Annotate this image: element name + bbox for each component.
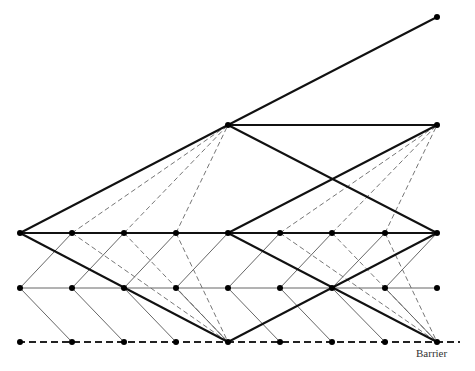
lattice-node	[225, 285, 231, 291]
thin-edge	[332, 288, 385, 342]
lattice-node	[382, 285, 388, 291]
lattice-node	[329, 230, 335, 236]
dashed-edge	[385, 233, 437, 342]
thin-edge	[176, 233, 228, 288]
lattice-node	[277, 230, 283, 236]
thin-edge	[124, 288, 176, 342]
lattice-node	[173, 339, 179, 345]
lattice-node	[17, 230, 23, 236]
thin-edge	[228, 233, 280, 288]
thin-edge	[72, 233, 124, 288]
lattice-node	[121, 230, 127, 236]
lattice-node	[69, 285, 75, 291]
lattice-node	[17, 339, 23, 345]
lattice-node	[69, 230, 75, 236]
thick-edges	[20, 17, 437, 342]
thin-edge	[228, 288, 280, 342]
lattice-node	[434, 122, 440, 128]
lattice-node	[434, 285, 440, 291]
thick-edge	[228, 17, 437, 125]
thin-edge	[385, 233, 437, 288]
nodes	[17, 14, 440, 345]
lattice-node	[69, 339, 75, 345]
lattice-node	[329, 339, 335, 345]
dashed-edge	[385, 125, 437, 233]
lattice-node	[173, 285, 179, 291]
lattice-node	[382, 230, 388, 236]
dashed-edge	[332, 125, 437, 233]
lattice-node	[382, 339, 388, 345]
lattice-node	[225, 339, 231, 345]
lattice-node	[121, 285, 127, 291]
thin-edge	[72, 288, 124, 342]
lattice-node	[277, 339, 283, 345]
lattice-node	[434, 14, 440, 20]
dashed-edge	[72, 233, 228, 342]
lattice-node	[225, 122, 231, 128]
lattice-node	[329, 285, 335, 291]
dashed-edge	[124, 125, 228, 233]
lattice-node	[121, 339, 127, 345]
barrier-label: Barrier	[416, 347, 447, 359]
lattice-node	[434, 230, 440, 236]
lattice-node	[173, 230, 179, 236]
dashed-edge	[280, 125, 437, 233]
dashed-edge	[280, 233, 437, 342]
lattice-node	[225, 230, 231, 236]
thin-edge	[20, 288, 72, 342]
thin-edge	[20, 233, 72, 288]
dashed-edge	[176, 125, 228, 233]
dashed-edge	[72, 125, 228, 233]
thin-edge	[280, 233, 332, 288]
lattice-node	[277, 285, 283, 291]
dashed-edge	[176, 233, 228, 342]
lattice-diagram	[0, 0, 475, 371]
thin-edge	[280, 288, 332, 342]
diagram-canvas: Barrier	[0, 0, 475, 371]
lattice-node	[434, 339, 440, 345]
thick-edge	[20, 125, 228, 233]
lattice-node	[17, 285, 23, 291]
